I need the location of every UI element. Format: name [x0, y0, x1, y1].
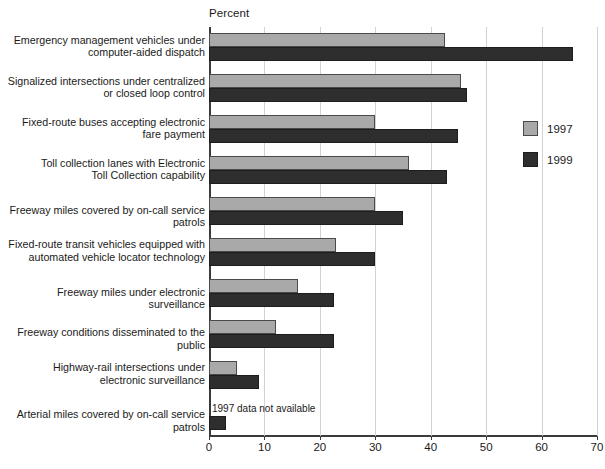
- bar-1999: [209, 416, 226, 430]
- bar-1997: [209, 115, 375, 129]
- bar-1999: [209, 129, 458, 143]
- x-axis-tick-label: 40: [424, 441, 437, 453]
- x-axis-tick: [542, 436, 543, 440]
- annotation-no-data: 1997 data not available: [212, 403, 315, 414]
- x-axis-tick-label: 0: [206, 441, 212, 453]
- legend-item-1999[interactable]: 1999: [523, 152, 573, 167]
- x-axis-tick: [431, 436, 432, 440]
- legend: 1997 1999: [523, 121, 597, 175]
- category-label: Fixed-route transit vehicles equipped wi…: [0, 238, 205, 263]
- category-label: Freeway miles covered by on-call service…: [0, 204, 205, 229]
- gridline: [486, 27, 487, 436]
- bar-1997: [209, 197, 375, 211]
- bar-1999: [209, 47, 573, 61]
- legend-item-1997[interactable]: 1997: [523, 121, 573, 136]
- axis-header-percent: Percent: [209, 7, 249, 19]
- bar-1999: [209, 375, 259, 389]
- bar-1997: [209, 279, 298, 293]
- legend-label-1999: 1999: [547, 154, 573, 166]
- category-label: Emergency management vehicles under comp…: [0, 34, 205, 59]
- x-axis-tick-label: 30: [369, 441, 382, 453]
- x-axis-tick: [209, 436, 210, 440]
- category-label: Freeway conditions disseminated to the p…: [0, 326, 205, 351]
- legend-swatch-1997: [523, 121, 538, 136]
- x-axis-tick: [375, 436, 376, 440]
- bar-1997: [209, 74, 461, 88]
- bar-1999: [209, 252, 375, 266]
- x-axis-tick-label: 20: [313, 441, 326, 453]
- category-label: Toll collection lanes with Electronic To…: [0, 157, 205, 182]
- bar-1999: [209, 211, 403, 225]
- bar-chart: Percent 010203040506070 Emergency manage…: [0, 0, 605, 469]
- x-axis-tick-label: 70: [591, 441, 604, 453]
- bar-1997: [209, 156, 409, 170]
- legend-swatch-1999: [523, 152, 538, 167]
- gridline: [597, 27, 598, 436]
- gridline: [542, 27, 543, 436]
- x-axis-tick-label: 60: [535, 441, 548, 453]
- x-axis-tick: [597, 436, 598, 440]
- category-label: Arterial miles covered by on-call servic…: [0, 408, 205, 433]
- x-axis-tick-label: 50: [480, 441, 493, 453]
- x-axis-tick: [486, 436, 487, 440]
- category-label: Fixed-route buses accepting electronic f…: [0, 116, 205, 141]
- x-axis-tick: [320, 436, 321, 440]
- bar-1999: [209, 170, 447, 184]
- legend-label-1997: 1997: [547, 123, 573, 135]
- bar-1997: [209, 33, 445, 47]
- bar-1997: [209, 361, 237, 375]
- x-axis-tick-label: 10: [258, 441, 271, 453]
- bar-1997: [209, 320, 276, 334]
- bar-1997: [209, 238, 336, 252]
- x-axis-tick: [264, 436, 265, 440]
- bar-1999: [209, 293, 334, 307]
- category-label: Highway-rail intersections under electro…: [0, 361, 205, 386]
- bar-1999: [209, 88, 467, 102]
- category-label: Freeway miles under electronic surveilla…: [0, 286, 205, 311]
- category-label: Signalized intersections under centraliz…: [0, 75, 205, 100]
- bar-1999: [209, 334, 334, 348]
